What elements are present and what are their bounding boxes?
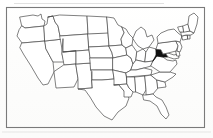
state-MI[interactable] [133,27,154,49]
us-map-svg [0,0,213,138]
state-KS[interactable] [90,58,113,70]
state-WI[interactable] [121,27,133,48]
state-RI[interactable] [188,35,190,39]
state-NM[interactable] [76,63,92,89]
state-FL[interactable] [143,94,169,119]
us-state-map-figure [0,0,213,138]
state-SD[interactable] [88,33,109,47]
state-ME[interactable] [188,13,198,33]
state-AL[interactable] [135,76,146,95]
state-WA[interactable] [20,14,45,28]
state-AZ[interactable] [54,64,78,88]
state-NY[interactable] [157,29,182,43]
state-WY[interactable] [60,34,89,52]
state-ND[interactable] [87,16,108,34]
state-outlines-group [17,13,198,120]
state-OR[interactable] [17,26,45,43]
state-OK[interactable] [91,70,114,80]
